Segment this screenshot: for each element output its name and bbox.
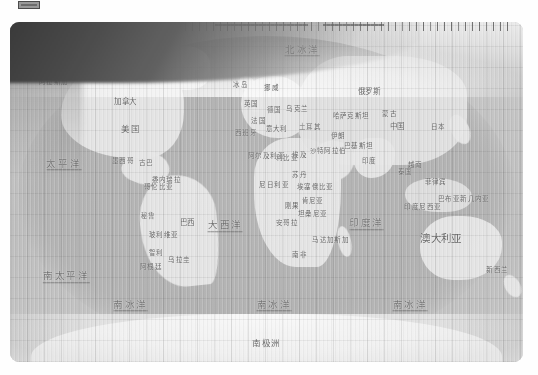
map-label-country: 坦桑尼亚 bbox=[298, 211, 328, 218]
map-label-country: 巴布亚新几内亚 bbox=[438, 196, 490, 203]
map-label-country: 巴西 bbox=[180, 219, 195, 227]
map-label-ocean: 南冰洋 bbox=[393, 300, 428, 312]
map-label-ocean: 南冰洋 bbox=[257, 300, 292, 312]
map-label-country: 古巴 bbox=[139, 160, 154, 167]
map-label-country: 新西兰 bbox=[486, 267, 508, 274]
map-label-country: 印度 bbox=[362, 158, 377, 165]
map-label-country: 利比亚 bbox=[276, 155, 298, 162]
map-label-country: 伊朗 bbox=[331, 133, 346, 140]
map-label-country: 秘鲁 bbox=[141, 213, 156, 220]
map-label-country: 墨西哥 bbox=[112, 158, 134, 165]
map-label-country: 肯尼亚 bbox=[302, 197, 324, 204]
map-label-country: 安哥拉 bbox=[276, 219, 298, 226]
map-label-country: 智利 bbox=[149, 250, 164, 257]
map-label-country: 南非 bbox=[292, 252, 307, 259]
map-label-ocean: 南冰洋 bbox=[113, 300, 148, 312]
map-label-country: 哈萨克斯坦 bbox=[333, 112, 370, 119]
map-label-country: 泰国 bbox=[398, 168, 413, 175]
map-label-country: 印度尼西亚 bbox=[404, 204, 441, 211]
world-map-image: 加拿大美国格陵兰阿拉斯加墨西哥巴西阿根廷秘鲁智利哥伦比亚俄罗斯中国蒙古印度哈萨克… bbox=[10, 22, 523, 362]
map-label-country: 玻利维亚 bbox=[149, 231, 179, 238]
map-label-country: 中国 bbox=[390, 124, 405, 132]
map-label-country: 巴基斯坦 bbox=[344, 143, 374, 150]
map-label-country: 西班牙 bbox=[235, 129, 257, 136]
map-label-ocean: 印度洋 bbox=[349, 219, 384, 231]
map-label-country: 埃塞俄比亚 bbox=[297, 184, 334, 191]
map-label-country: 俄罗斯 bbox=[358, 88, 380, 96]
map-label-country: 沙特阿拉伯 bbox=[310, 148, 347, 155]
map-label-country: 苏丹 bbox=[292, 172, 307, 179]
map-label-country: 法国 bbox=[251, 117, 266, 124]
map-label-country: 日本 bbox=[431, 124, 446, 131]
map-label-country: 意大利 bbox=[266, 126, 288, 133]
scan-marker-icon bbox=[18, 1, 40, 9]
page-canvas: 加拿大美国格陵兰阿拉斯加墨西哥巴西阿根廷秘鲁智利哥伦比亚俄罗斯中国蒙古印度哈萨克… bbox=[0, 0, 538, 375]
map-label-country: 乌克兰 bbox=[286, 105, 308, 112]
map-label-country: 德国 bbox=[267, 107, 282, 114]
map-label-country: 马达加斯加 bbox=[312, 236, 349, 243]
map-label-country: 挪威 bbox=[264, 85, 279, 92]
map-label-country: 南极洲 bbox=[252, 339, 280, 348]
map-label-country: 刚果 bbox=[285, 202, 300, 209]
map-label-country: 美国 bbox=[121, 125, 140, 134]
map-label-ocean: 南太平洋 bbox=[43, 271, 89, 283]
map-label-country: 加拿大 bbox=[114, 98, 136, 106]
map-label-country: 哥伦比亚 bbox=[144, 184, 174, 191]
map-label-ocean: 大西洋 bbox=[208, 220, 243, 232]
map-label-country: 尼日利亚 bbox=[259, 182, 289, 189]
map-label-country: 委内瑞拉 bbox=[152, 177, 182, 184]
map-label-country: 土耳其 bbox=[299, 124, 321, 131]
map-label-country: 蒙古 bbox=[382, 111, 397, 118]
map-label-country: 乌拉圭 bbox=[168, 257, 190, 264]
map-label-country: 越南 bbox=[408, 162, 423, 169]
map-label-country: 澳大利亚 bbox=[420, 233, 462, 244]
map-label-country: 英国 bbox=[244, 100, 259, 107]
map-label-country: 菲律宾 bbox=[425, 179, 447, 186]
map-label-country: 冰岛 bbox=[233, 82, 248, 89]
map-label-country: 阿根廷 bbox=[140, 264, 162, 271]
